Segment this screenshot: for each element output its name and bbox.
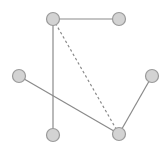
- edge-A-F-dashed: [53, 19, 119, 134]
- node-A: [47, 13, 60, 26]
- node-E: [47, 129, 60, 142]
- edge-D-F: [119, 76, 152, 134]
- edges-layer: [19, 19, 152, 135]
- nodes-layer: [13, 13, 159, 142]
- node-F: [113, 128, 126, 141]
- node-C: [13, 70, 26, 83]
- node-D: [146, 70, 159, 83]
- graph-diagram: [0, 0, 168, 148]
- edge-C-F: [19, 76, 119, 134]
- node-B: [113, 13, 126, 26]
